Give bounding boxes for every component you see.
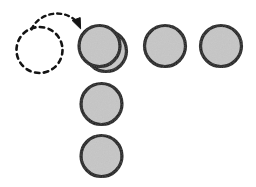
disk-column-2: [81, 136, 122, 177]
disk-top-row-3: [201, 26, 242, 67]
disk-top-row-2: [145, 26, 186, 67]
disk-top-row-1: [79, 26, 120, 67]
diagram-svg: [0, 0, 256, 187]
diagram-canvas: [0, 0, 256, 187]
disk-column-1: [81, 84, 122, 125]
